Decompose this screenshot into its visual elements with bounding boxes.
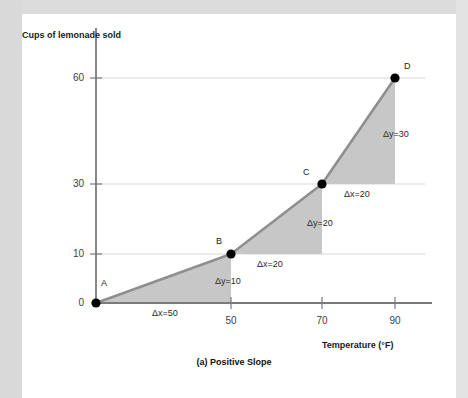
annotation-dx-cd: Δx=20 (344, 189, 370, 199)
x-axis-title: Temperature (°F) (322, 340, 393, 351)
data-point-b[interactable] (226, 249, 235, 258)
y-tick-label-30: 30 (58, 178, 84, 189)
y-axis-title: Cups of lemonade sold (22, 30, 94, 41)
y-tick-label-60: 60 (58, 72, 84, 83)
figure-root: Cups of lemonade sold Temperature (°F) 6… (0, 0, 468, 398)
x-tick-label-70: 70 (307, 315, 337, 326)
annotation-dy-cd: Δy=30 (383, 129, 409, 139)
point-label-d: D (404, 61, 411, 71)
point-label-a: A (101, 278, 107, 288)
line-chart (0, 0, 468, 398)
x-tick-label-50: 50 (216, 315, 246, 326)
annotation-dx-ab: Δx=50 (152, 308, 178, 318)
x-tick-label-90: 90 (380, 315, 410, 326)
annotation-dx-bc: Δx=20 (257, 259, 283, 269)
point-label-c: C (303, 167, 310, 177)
point-label-b: B (216, 236, 222, 246)
annotation-dy-ab: Δy=10 (215, 276, 241, 286)
y-tick-label-0: 0 (58, 297, 84, 308)
data-point-c[interactable] (317, 179, 326, 188)
annotation-dy-bc: Δy=20 (307, 218, 333, 228)
y-tick-label-10: 10 (58, 248, 84, 259)
data-point-a[interactable] (91, 298, 100, 307)
data-point-d[interactable] (390, 73, 399, 82)
figure-caption: (a) Positive Slope (0, 357, 468, 367)
